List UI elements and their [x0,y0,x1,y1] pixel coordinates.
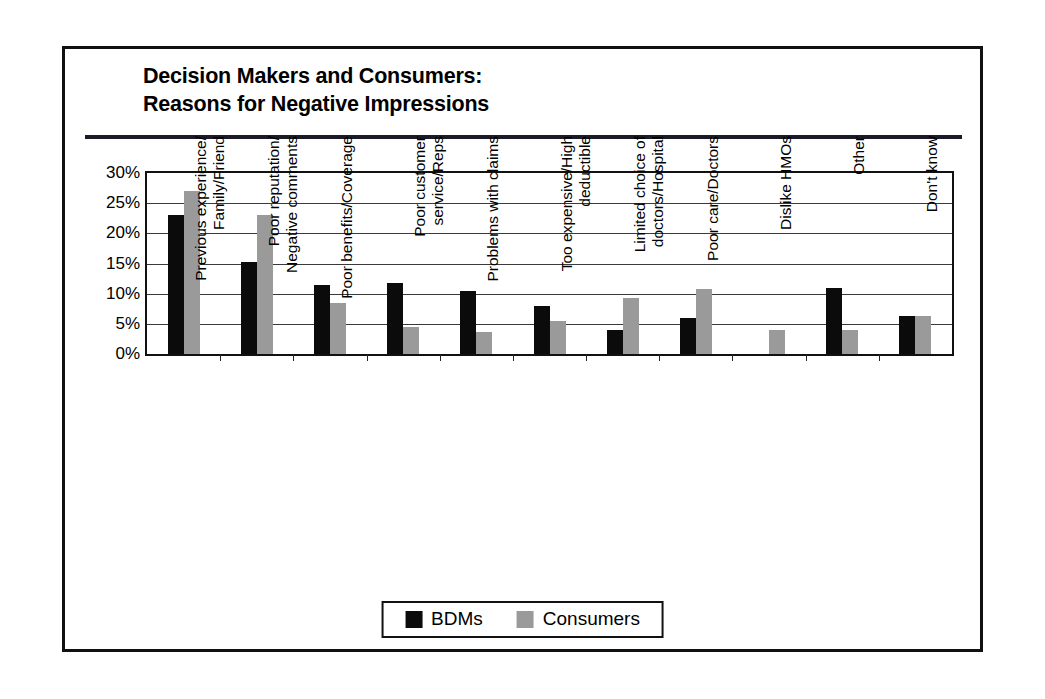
y-axis-tick-label: 0% [115,344,140,364]
bar-bdms [680,318,696,354]
bar-bdms [460,291,476,354]
bar-bdms [241,262,257,354]
bar-bdms [168,215,184,354]
y-axis-tick-label: 10% [106,284,140,304]
bar-bdms [826,288,842,354]
x-axis-tick [879,354,880,361]
x-axis-category-label: Too expensive/High deductible [558,136,594,366]
x-axis-category-label: Poor customer service/Reps [411,136,447,366]
x-axis-category-label: Poor reputation/ Negative comments [265,136,301,366]
x-axis-category-label: Problems with claims [484,136,502,366]
x-axis-category-label: Previous experience/ Family/Friend [192,136,228,366]
bar-bdms [314,285,330,354]
x-axis-category-label: Poor care/Doctors [704,136,722,366]
y-axis-tick-label: 30% [106,163,140,183]
x-axis-tick [732,354,733,361]
x-axis-category-label: Other [850,136,868,366]
x-axis-category-label: Don't know [923,136,941,366]
y-axis-tick-label: 20% [106,223,140,243]
legend-item: Consumers [517,608,640,630]
bar-bdms [534,306,550,354]
bar-bdms [387,283,403,354]
y-axis-tick-label: 25% [106,193,140,213]
x-axis-tick [806,354,807,361]
gray-square-swatch [517,611,534,628]
figure-frame: Decision Makers and Consumers: Reasons f… [62,46,983,652]
legend-item: BDMs [405,608,483,630]
chart-legend: BDMsConsumers [381,601,664,638]
x-axis-tick [367,354,368,361]
bar-bdms [607,330,623,354]
black-square-swatch [405,611,422,628]
x-axis-tick [513,354,514,361]
x-axis-category-label: Limited choice of doctors/Hospital [631,136,667,366]
y-axis-tick-label: 15% [106,254,140,274]
legend-label: Consumers [543,608,640,630]
x-axis-category-label: Dislike HMOs [777,136,795,366]
y-axis-tick-label: 5% [115,314,140,334]
plot-area: 0%5%10%15%20%25%30% Previous experience/… [145,171,954,356]
legend-label: BDMs [431,608,483,630]
plot-wrapper: 0%5%10%15%20%25%30% Previous experience/… [65,49,980,649]
bar-bdms [899,316,915,354]
x-axis-category-label: Poor benefits/Coverage [338,136,356,366]
